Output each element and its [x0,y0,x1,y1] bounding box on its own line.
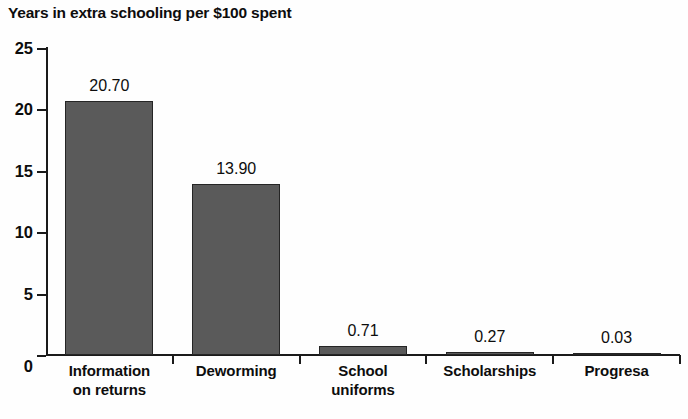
x-category-label-line: Information [46,361,173,380]
y-tick-label-20: 20 [15,99,33,119]
bar-value-label: 0.27 [445,328,535,346]
x-category-label-line: Deworming [173,361,300,380]
x-category-label-line: on returns [46,380,173,399]
y-tick-label-15: 15 [15,161,33,181]
y-tick-mark [37,294,46,296]
x-category-label-line: Scholarships [426,361,553,380]
x-category-label-line: School [300,361,427,380]
y-tick-label-25: 25 [15,38,33,58]
bar [446,352,534,355]
bar [319,346,407,355]
bar-value-label: 0.71 [318,322,408,340]
bar [573,353,661,355]
bar-value-label: 20.70 [64,77,154,95]
x-category-label: Informationon returns [46,361,173,399]
y-tick-label-5: 5 [24,284,33,304]
bar-value-label: 13.90 [191,160,281,178]
bar [65,101,153,355]
bar [192,184,280,355]
y-tick-mark [37,109,46,111]
bar-value-label: 0.03 [572,329,662,347]
x-category-label: Progresa [553,361,680,380]
x-category-label-line: uniforms [300,380,427,399]
y-tick-mark [37,171,46,173]
y-tick-mark [37,48,46,50]
x-category-label: Schooluniforms [300,361,427,399]
chart-title: Years in extra schooling per $100 spent [8,4,291,22]
y-tick-label-0: 0 [0,357,33,376]
x-category-label: Deworming [173,361,300,380]
y-tick-label-10: 10 [15,222,33,242]
y-tick-mark [37,355,46,357]
y-tick-mark [37,232,46,234]
x-category-label: Scholarships [426,361,553,380]
x-category-label-line: Progresa [553,361,680,380]
bar-chart: Years in extra schooling per $100 spent … [0,0,688,419]
